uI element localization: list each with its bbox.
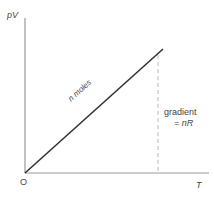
y-axis-label: pV: [7, 10, 18, 20]
gradient-value: = nR: [174, 118, 193, 128]
origin-label: O: [20, 177, 27, 187]
n-moles-line: [25, 49, 163, 173]
gradient-label: gradient: [164, 107, 197, 117]
x-axis-label: T: [196, 180, 202, 190]
pv-t-diagram: pV O T n moles gradient = nR: [0, 0, 214, 198]
diagram-canvas: [0, 0, 214, 198]
